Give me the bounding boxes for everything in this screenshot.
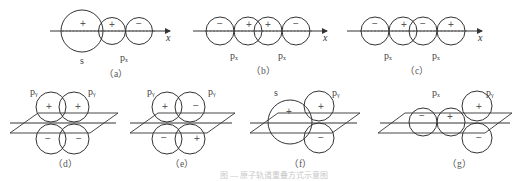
figure-caption: 图 — 原子轨道重叠方式示意图 — [220, 170, 328, 180]
orbital-label: pᵧ — [88, 86, 96, 98]
panel-c: − + − + x pₓ pₓ （c） — [347, 17, 483, 76]
orbital-overlap-figure: + + − x s pₓ （a） − + + − x pₓ pₓ （b） − +… — [0, 0, 520, 181]
py-lobe-negative — [152, 124, 182, 154]
sign: − — [419, 110, 425, 121]
orbital-label: pₓ — [384, 50, 392, 61]
panel-caption: （c） — [405, 65, 429, 76]
axis-label: x — [165, 32, 171, 43]
sign: + — [447, 111, 453, 122]
orbital-label: pₓ — [120, 52, 128, 63]
sign: + — [286, 106, 292, 117]
orbital-label: pᵧ — [30, 86, 38, 98]
panel-f: + + − s pᵧ （f） — [250, 87, 360, 169]
panel-g: − + + − pₓ pᵧ （g） — [378, 87, 512, 169]
panel-d: + + − − pᵧ pᵧ （d） — [10, 86, 118, 169]
panel-caption: （g） — [447, 158, 472, 169]
sign: + — [401, 19, 407, 30]
py-lobe-positive — [175, 124, 205, 154]
panel-e: + − − + pᵧ pᵧ （e） — [130, 86, 235, 169]
sign: − — [372, 18, 378, 29]
sign: − — [193, 100, 199, 111]
axis-label: x — [477, 32, 483, 43]
orbital-label: pₓ — [432, 50, 440, 61]
sign: + — [109, 19, 115, 30]
sign: − — [76, 133, 82, 144]
sign: + — [448, 19, 454, 30]
py-lobe-negative — [36, 124, 66, 154]
panel-caption: （f） — [289, 158, 312, 169]
panel-caption: （e） — [170, 158, 194, 169]
sign: − — [161, 132, 167, 143]
orbital-label: pᵧ — [486, 87, 494, 99]
sign: − — [420, 18, 426, 29]
sign: + — [75, 101, 81, 112]
panel-b: − + + − x pₓ pₓ （b） — [193, 17, 328, 76]
sign: − — [293, 18, 299, 29]
py-lobe-positive — [59, 92, 89, 122]
py-lobe-negative — [175, 92, 205, 122]
sign: − — [217, 18, 223, 29]
sign: + — [476, 101, 482, 112]
sign: − — [476, 132, 482, 143]
panel-a: + + − x s pₓ （a） — [50, 10, 171, 79]
panel-caption: （b） — [251, 65, 276, 76]
orbital-label: pᵧ — [147, 86, 155, 98]
orbital-label: pₓ — [230, 50, 238, 61]
orbital-label: pₓ — [278, 50, 286, 61]
panel-caption: （a） — [104, 68, 128, 79]
sign: + — [162, 101, 168, 112]
sign: + — [46, 101, 52, 112]
sign: + — [265, 19, 271, 30]
orbital-label: pᵧ — [208, 86, 216, 98]
sign: + — [318, 101, 324, 112]
orbital-label: pₓ — [432, 87, 440, 98]
orbital-label: pᵧ — [332, 87, 340, 99]
sign: + — [246, 19, 252, 30]
panel-caption: （d） — [53, 158, 78, 169]
orbital-label: s — [274, 87, 278, 98]
sign: + — [80, 18, 86, 29]
axis-label: x — [322, 32, 328, 43]
sign: − — [45, 133, 51, 144]
sign: − — [136, 18, 142, 29]
orbital-label: s — [80, 55, 84, 66]
sign: + — [194, 133, 200, 144]
py-lobe-negative — [59, 124, 89, 154]
figure-caption-text: 图 — 原子轨道重叠方式示意图 — [220, 170, 328, 180]
sign: − — [318, 132, 324, 143]
